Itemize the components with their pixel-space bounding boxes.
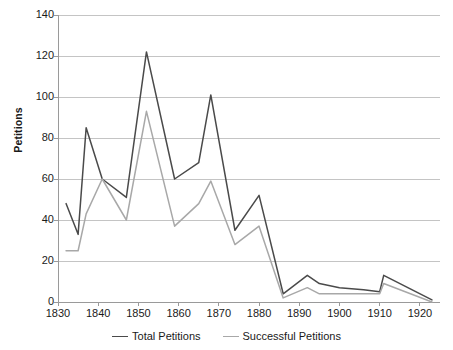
plot-area <box>0 0 453 350</box>
line-chart: Petitions 140120100806040200 18301840185… <box>0 0 453 350</box>
legend-item-successful-petitions[interactable]: Successful Petitions <box>223 330 341 342</box>
x-axis-tick-label: 1870 <box>196 307 242 319</box>
series-line-successful-petitions <box>66 111 432 302</box>
x-axis-tick-label: 1840 <box>75 307 121 319</box>
legend-line-swatch <box>223 336 239 337</box>
legend-label: Successful Petitions <box>243 330 341 342</box>
x-axis-tick-label: 1850 <box>115 307 161 319</box>
x-axis-tick-label: 1830 <box>35 307 81 319</box>
x-axis-tick-label: 1910 <box>357 307 403 319</box>
series-line-total-petitions <box>66 52 432 300</box>
legend-item-total-petitions[interactable]: Total Petitions <box>112 330 200 342</box>
x-axis-tick-label: 1890 <box>276 307 322 319</box>
x-axis-tick-label: 1900 <box>316 307 362 319</box>
x-axis-tick-label: 1880 <box>236 307 282 319</box>
legend-label: Total Petitions <box>132 330 200 342</box>
x-axis-tick-label: 1860 <box>156 307 202 319</box>
chart-legend: Total PetitionsSuccessful Petitions <box>0 330 453 342</box>
legend-line-swatch <box>112 336 128 337</box>
x-axis-tick-label: 1920 <box>397 307 443 319</box>
